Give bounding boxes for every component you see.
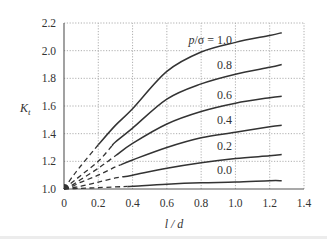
y-tick-label: 1.0	[42, 183, 57, 195]
series-lines	[64, 33, 282, 189]
line-chart: 1.01.21.41.61.82.02.2 00.20.40.60.81.01.…	[0, 0, 327, 239]
x-tick-label: 1.2	[263, 197, 278, 209]
y-tick-labels: 1.01.21.41.61.82.02.2	[42, 17, 57, 195]
y-tick-label: 1.4	[42, 128, 57, 140]
series-label: 0.6	[217, 88, 232, 102]
x-tick-label: 1.0	[228, 197, 243, 209]
x-tick-label: 1.4	[297, 197, 312, 209]
y-tick-label: 2.2	[42, 17, 57, 29]
bottom-border	[0, 236, 327, 239]
series-label: 0.4	[217, 113, 232, 127]
y-tick-label: 1.2	[42, 155, 57, 167]
series-line-solid	[127, 181, 281, 187]
series-line-solid	[117, 96, 282, 154]
x-tick-labels: 00.20.40.60.81.01.21.4	[61, 197, 311, 209]
series-label: 0.8	[217, 58, 232, 72]
x-axis-label: l / d	[165, 217, 185, 231]
series-line-dashed	[64, 177, 122, 189]
axes	[64, 23, 304, 189]
y-axis-label: Kt	[19, 101, 31, 117]
y-tick-label: 2.0	[42, 45, 57, 57]
series-line-solid	[121, 125, 282, 164]
series-line-dashed	[64, 146, 112, 189]
series-label: 0.2	[217, 139, 232, 153]
origin-marker	[64, 184, 69, 189]
x-tick-label: 0	[61, 197, 67, 209]
y-tick-label: 1.8	[42, 72, 57, 84]
y-axis-label-subscript: t	[28, 107, 31, 117]
y-tick-label: 1.6	[42, 100, 57, 112]
x-tick-label: 0.6	[160, 197, 175, 209]
x-tick-label: 0.8	[194, 197, 209, 209]
series-label: 0.0	[217, 163, 232, 177]
series-line-solid	[122, 154, 281, 176]
grid-lines	[64, 23, 304, 189]
series-label: p/σ = 1.0	[187, 33, 232, 47]
x-tick-label: 0.4	[125, 197, 140, 209]
x-tick-label: 0.2	[91, 197, 106, 209]
